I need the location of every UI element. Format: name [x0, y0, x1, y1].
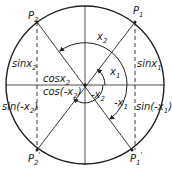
svg-text:cos(-x2): cos(-x2) — [43, 86, 82, 100]
svg-text:sinx2: sinx2 — [12, 58, 37, 72]
point-p1-dot — [134, 21, 137, 24]
svg-text:x2: x2 — [96, 31, 108, 45]
angle-arc-x1 — [98, 70, 106, 86]
svg-text:P1': P1' — [130, 151, 143, 167]
label-sin-x1: sinx1 — [137, 58, 162, 72]
label-p1prime: P1' — [130, 151, 143, 167]
label-sin-x2: sinx2 — [12, 58, 37, 72]
svg-text:x1: x1 — [109, 66, 120, 80]
label-p2prime: P2' — [28, 151, 41, 167]
label-angle-x2: x2 — [96, 31, 108, 45]
svg-text:P2: P2 — [28, 10, 39, 24]
svg-text:sin(-x1): sin(-x1) — [136, 101, 172, 115]
label-sin-neg-x2: sin(-x2) — [2, 101, 38, 115]
origin-dot — [83, 83, 87, 87]
svg-text:-x1: -x1 — [114, 97, 128, 111]
svg-text:P2': P2' — [28, 151, 41, 167]
label-angle-x1: x1 — [109, 66, 120, 80]
unit-circle-diagram: P2 P1 P2' P1' x2 x1 -x2 -x1 sinx2 sinx1 … — [0, 0, 172, 170]
svg-text:sinx1: sinx1 — [137, 58, 162, 72]
label-angle-neg-x1: -x1 — [114, 97, 128, 111]
svg-text:P1: P1 — [133, 5, 144, 19]
point-p1prime-dot — [131, 149, 134, 152]
svg-text:sin(-x2): sin(-x2) — [2, 101, 38, 115]
label-sin-neg-x1: sin(-x1) — [136, 101, 172, 115]
label-p2: P2 — [28, 10, 39, 24]
label-p1: P1 — [133, 5, 144, 19]
label-cos-neg-x2: cos(-x2) — [43, 86, 82, 100]
